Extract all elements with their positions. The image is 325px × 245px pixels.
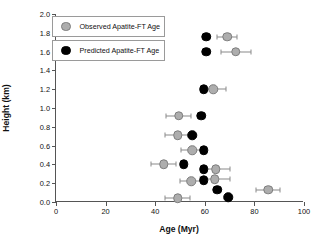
data-point-predicted	[196, 111, 206, 121]
apatite-ft-age-scatter-chart: Height (km) Age (Myr) 0.00.20.40.60.81.0…	[0, 0, 325, 245]
x-tick	[56, 202, 57, 206]
x-tick-label: 80	[250, 207, 258, 216]
error-bar-cap	[176, 162, 177, 167]
error-bar-cap	[225, 87, 226, 92]
data-point-observed	[222, 32, 232, 42]
x-tick	[254, 202, 255, 206]
error-bar-cap	[191, 113, 192, 118]
legend-item-predicted: Predicted Apatite-FT Age	[52, 40, 165, 61]
data-point-predicted	[199, 84, 209, 94]
data-point-observed	[173, 193, 183, 203]
y-tick-label: 0.8	[40, 122, 50, 131]
data-point-observed	[186, 177, 196, 187]
legend-item-observed: Observed Apatite-FT Age	[52, 16, 165, 37]
x-tick	[106, 202, 107, 206]
data-point-observed	[231, 47, 241, 57]
data-point-observed	[211, 164, 221, 174]
error-bar-cap	[189, 196, 190, 201]
data-point-observed	[210, 175, 220, 185]
y-tick-label: 1.6	[40, 47, 50, 56]
data-point-observed	[209, 84, 219, 94]
y-tick-label: 1.0	[40, 104, 50, 113]
y-axis-title: Height (km)	[1, 84, 11, 131]
error-bar-cap	[229, 167, 230, 172]
y-tick	[52, 14, 56, 15]
x-tick-label: 20	[101, 207, 109, 216]
error-bar-cap	[166, 113, 167, 118]
x-tick	[155, 202, 156, 206]
y-tick	[52, 183, 56, 184]
data-point-predicted	[199, 146, 209, 156]
y-tick-label: 0.6	[40, 141, 50, 150]
y-tick	[52, 127, 56, 128]
error-bar-cap	[165, 196, 166, 201]
data-point-predicted	[201, 47, 211, 57]
data-point-predicted	[212, 185, 222, 195]
data-point-predicted	[188, 131, 198, 141]
x-tick-label: 60	[201, 207, 209, 216]
data-point-observed	[159, 160, 169, 170]
data-point-predicted	[224, 193, 234, 203]
legend-marker-observed-icon	[61, 22, 71, 32]
error-bar-cap	[165, 133, 166, 138]
data-point-observed	[173, 131, 183, 141]
error-bar-cap	[151, 162, 152, 167]
error-bar-cap	[181, 148, 182, 153]
x-tick-label: 40	[151, 207, 159, 216]
data-point-observed	[263, 185, 273, 195]
x-tick-label: 0	[54, 207, 58, 216]
y-tick-label: 0.4	[40, 160, 50, 169]
y-tick-label: 0.0	[40, 198, 50, 207]
x-axis-title: Age (Myr)	[159, 224, 199, 234]
data-point-predicted	[199, 176, 209, 186]
data-point-observed	[174, 111, 184, 121]
legend-marker-predicted-icon	[61, 46, 71, 56]
legend-label-observed: Observed Apatite-FT Age	[80, 22, 161, 31]
x-tick	[304, 202, 305, 206]
y-tick-label: 1.2	[40, 85, 50, 94]
y-tick	[52, 164, 56, 165]
error-bar-cap	[220, 49, 221, 54]
y-tick-label: 1.8	[40, 28, 50, 37]
error-bar-cap	[237, 34, 238, 39]
error-bar-cap	[250, 49, 251, 54]
data-point-predicted	[179, 160, 189, 170]
error-bar-cap	[280, 187, 281, 192]
error-bar-cap	[180, 179, 181, 184]
y-tick-label: 2.0	[40, 10, 50, 19]
x-tick-label: 100	[298, 207, 310, 216]
y-tick	[52, 146, 56, 147]
y-tick-label: 0.2	[40, 179, 50, 188]
data-point-observed	[188, 146, 198, 156]
error-bar-cap	[217, 34, 218, 39]
y-tick	[52, 108, 56, 109]
error-bar-cap	[255, 187, 256, 192]
data-point-predicted	[201, 32, 211, 42]
legend-label-predicted: Predicted Apatite-FT Age	[80, 46, 160, 55]
y-tick-label: 1.4	[40, 66, 50, 75]
x-tick	[205, 202, 206, 206]
y-tick	[52, 89, 56, 90]
error-bar-cap	[229, 177, 230, 182]
data-point-predicted	[199, 164, 209, 174]
y-tick	[52, 70, 56, 71]
